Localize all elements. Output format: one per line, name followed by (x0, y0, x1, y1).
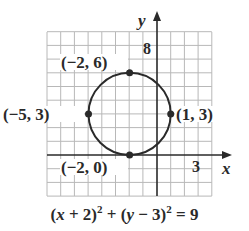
y-axis-arrow-icon (153, 11, 161, 21)
point-top (126, 69, 133, 76)
label-top: (−2, 6) (61, 53, 108, 72)
y-axis-label: y (136, 11, 146, 30)
point-bottom (126, 152, 133, 159)
point-left (85, 110, 92, 117)
coordinate-plane: x y 3 8 (−2, 6) (−5, 3) (1, 3) (−2, 0) (0, 0, 249, 231)
point-right (167, 110, 174, 117)
x-axis-label: x (221, 159, 231, 178)
label-left: (−5, 3) (3, 105, 50, 124)
y-tick-label: 8 (143, 40, 151, 57)
point-labels: (−2, 6) (−5, 3) (1, 3) (−2, 0) (2, 53, 235, 177)
label-right: (1, 3) (176, 105, 213, 124)
x-axis-arrow-icon (222, 151, 232, 159)
x-tick-label: 3 (192, 158, 200, 175)
label-bottom: (−2, 0) (61, 158, 108, 177)
circle-equation: (x + 2)2 + (y − 3)2 = 9 (0, 203, 249, 225)
